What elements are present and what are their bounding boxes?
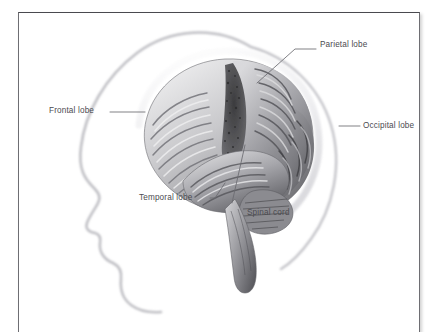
label-occipital-lobe: Occipital lobe — [363, 122, 414, 130]
label-temporal-lobe: Temporal lobe — [139, 194, 192, 202]
label-parietal-lobe: Parietal lobe — [320, 41, 367, 49]
brain-anatomy-illustration — [19, 13, 420, 332]
label-spinal-cord: Spinal cord — [247, 209, 290, 217]
cerebrum — [144, 59, 314, 293]
figure-stage: Parietal lobe Frontal lobe Occipital lob… — [19, 13, 420, 332]
figure-frame: Parietal lobe Frontal lobe Occipital lob… — [18, 12, 420, 332]
label-frontal-lobe: Frontal lobe — [49, 107, 94, 115]
